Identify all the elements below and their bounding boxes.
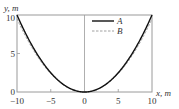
y-tick-label-5: 5 xyxy=(11,49,16,59)
x-tick-label-0: 0 xyxy=(82,96,87,106)
x-tick-label-5: 5 xyxy=(116,96,121,106)
chart: A B y, m x, m 0 5 10 −10 −5 0 5 10 xyxy=(0,0,179,109)
x-tick-label-neg10: −10 xyxy=(10,96,25,106)
y-axis-label: y, m xyxy=(3,3,19,13)
y-tick-label-10: 10 xyxy=(6,13,16,23)
legend-label-a: A xyxy=(116,16,123,26)
x-tick-label-neg5: −5 xyxy=(46,96,56,106)
x-axis-label: x, m xyxy=(155,88,171,98)
x-tick-label-10: 10 xyxy=(148,96,158,106)
legend-label-b: B xyxy=(117,26,123,36)
legend: A B xyxy=(92,16,123,36)
